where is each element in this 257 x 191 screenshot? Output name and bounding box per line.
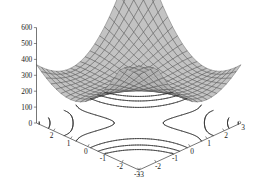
z-tick-label-400: 400 [21, 55, 32, 64]
z-tick-label-0: 0 [29, 119, 33, 128]
x-tick-label-1: 1 [207, 139, 211, 148]
z-tick-label-300: 300 [21, 71, 32, 80]
y-tick-label-2: 2 [50, 131, 54, 140]
y-tick-label-0: 0 [84, 147, 88, 156]
x-tick-label-3: 3 [241, 123, 245, 132]
x-tick-label-2: 2 [224, 131, 228, 140]
z-tick-label-100: 100 [21, 103, 32, 112]
surface-plot-figure: 6005004003002001000210-1-2-3-3-2-10123 [0, 0, 257, 191]
x-tick-label--3: -3 [138, 170, 144, 179]
x-tick-label-0: 0 [190, 147, 194, 156]
z-tick-label-500: 500 [21, 39, 32, 48]
y-tick-label-1: 1 [67, 139, 71, 148]
z-tick-label-600: 600 [21, 23, 32, 32]
surface-mesh [37, 0, 242, 102]
x-tick-label--2: -2 [155, 162, 161, 171]
plot-canvas: 6005004003002001000210-1-2-3-3-2-10123 [0, 0, 257, 191]
y-tick-label--2: -2 [117, 162, 123, 171]
z-tick-label-200: 200 [21, 87, 32, 96]
y-tick-label--1: -1 [100, 154, 106, 163]
z-axis [34, 28, 37, 123]
x-tick-label--1: -1 [172, 154, 178, 163]
